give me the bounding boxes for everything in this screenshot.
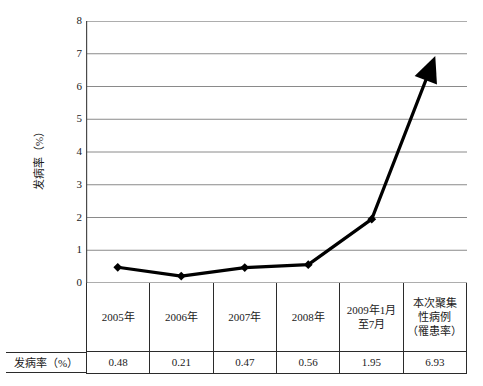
y-tick-5: 5 <box>64 113 82 124</box>
table-cell-value-5: 6.93 <box>403 352 466 374</box>
table-cell-period-line: （罹患率） <box>404 324 466 338</box>
y-axis-tick-labels: 876543210 <box>62 0 82 386</box>
table-row-header-label: 发病率（%） <box>6 352 86 373</box>
table-cell-period-line: 性病例 <box>404 310 466 324</box>
y-tick-4: 4 <box>64 146 82 157</box>
table-cell-period-line: 2006年 <box>150 310 212 324</box>
table-cell-period-4: 2009年1月至7月 <box>340 283 403 352</box>
table-cell-period-line: 至7月 <box>340 317 402 331</box>
table-cell-value-1: 0.21 <box>150 352 213 374</box>
table-cell-period-2: 2007年 <box>213 283 276 352</box>
y-tick-2: 2 <box>64 212 82 223</box>
y-tick-0: 0 <box>64 277 82 288</box>
gridlines <box>86 21 467 283</box>
y-tick-7: 7 <box>64 48 82 59</box>
data-marker-0 <box>113 263 122 272</box>
table-cell-period-line: 2008年 <box>277 310 339 324</box>
table-row-periods: 2005年2006年2007年2008年2009年1月至7月本次聚集性病例（罹患… <box>87 283 467 352</box>
table-cell-value-3: 0.56 <box>276 352 339 374</box>
series-line <box>118 71 430 276</box>
table-cell-period-5: 本次聚集性病例（罹患率） <box>403 283 466 352</box>
data-series-line <box>118 71 430 276</box>
table-cell-period-line: 2007年 <box>214 310 276 324</box>
table-cell-value-0: 0.48 <box>87 352 150 374</box>
data-table-wrapper: 2005年2006年2007年2008年2009年1月至7月本次聚集性病例（罹患… <box>86 283 467 373</box>
table-cell-period-line: 2005年 <box>87 310 149 324</box>
data-marker-1 <box>177 272 186 281</box>
y-tick-6: 6 <box>64 81 82 92</box>
data-table: 2005年2006年2007年2008年2009年1月至7月本次聚集性病例（罹患… <box>86 283 467 374</box>
y-axis-title: 发病率（%） <box>30 98 46 218</box>
table-cell-value-2: 0.47 <box>213 352 276 374</box>
y-tick-8: 8 <box>64 15 82 26</box>
table-cell-period-0: 2005年 <box>87 283 150 352</box>
y-tick-3: 3 <box>64 179 82 190</box>
table-cell-period-1: 2006年 <box>150 283 213 352</box>
table-row-values: 0.480.210.470.561.956.93 <box>87 352 467 374</box>
line-chart-svg <box>86 21 467 283</box>
data-point-markers <box>113 56 437 280</box>
data-marker-2 <box>240 263 249 272</box>
table-cell-period-line: 2009年1月 <box>340 303 402 317</box>
table-cell-value-4: 1.95 <box>340 352 403 374</box>
table-cell-period-line: 本次聚集 <box>404 296 466 310</box>
table-cell-period-3: 2008年 <box>276 283 339 352</box>
incidence-rate-chart-figure: 发病率（%） 876543210 2005年2006年2007年2008年200… <box>0 0 483 386</box>
plot-area <box>86 21 467 283</box>
y-tick-1: 1 <box>64 244 82 255</box>
